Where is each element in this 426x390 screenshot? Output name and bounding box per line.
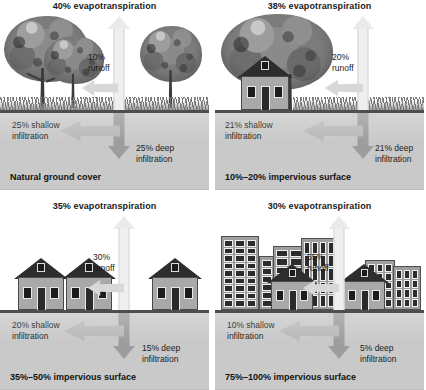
grass [0,97,209,110]
panel-caption: 75%–100% impervious surface [225,372,356,382]
panel-impervious-75-100: 30% evapotranspiration [215,200,424,389]
panel-caption: 35%–50% impervious surface [10,372,136,382]
house-door [37,287,46,310]
evapotranspiration-label: 40% evapotranspiration [0,1,209,11]
house-window [274,86,283,98]
soil-layer: 10% shallow infiltration 5% deep infiltr… [215,313,424,390]
runoff-label: 10% runoff [88,52,110,73]
panel-impervious-35-50: 35% evapotranspiration [0,200,209,389]
runoff-label: 55% runoff [307,252,329,273]
evapotranspiration-label: 35% evapotranspiration [0,201,209,211]
scene-natural: 10% runoff [0,14,209,110]
house-window [157,287,166,299]
house-window [300,290,308,301]
soil-layer: 20% shallow infiltration 15% deep infilt… [0,313,209,390]
soil-layer: 25% shallow infiltration 25% deep infilt… [0,113,209,190]
house-window [247,86,256,98]
house-window [184,287,193,299]
shallow-infiltration-label: 20% shallow infiltration [12,320,60,341]
tree-right [140,26,202,108]
deep-infiltration-label: 25% deep infiltration [136,143,174,164]
deep-infiltration-label: 21% deep infiltration [375,143,413,164]
panel-caption: 10%–20% impervious surface [225,172,351,182]
house-attic-window [289,269,296,277]
house-door [361,290,369,310]
evapotranspiration-label: 38% evapotranspiration [215,1,424,11]
deep-infiltration-label: 15% deep infiltration [142,343,180,364]
runoff-label: 30% runoff [93,252,115,273]
shallow-infiltration-arrow [64,321,124,341]
house [14,258,68,310]
house-door [289,290,297,310]
city-building [393,266,421,310]
scene-three-houses: 30% runoff [0,214,209,310]
shallow-infiltration-label: 10% shallow infiltration [227,320,275,341]
house-window [276,290,284,301]
panel-impervious-10-20: 38% evapotranspiration [215,0,424,189]
house-window [23,287,32,299]
house-window [71,287,80,299]
shallow-infiltration-label: 21% shallow infiltration [225,120,273,141]
shallow-infiltration-arrow [60,121,120,141]
evapotranspiration-label: 30% evapotranspiration [215,201,424,211]
house-body [271,281,313,310]
house-door [261,86,270,110]
shallow-infiltration-arrow [303,121,363,141]
house [148,258,202,310]
house-window [372,290,380,301]
house-window [348,290,356,301]
house-attic-window [261,61,269,70]
house-body [66,277,111,310]
house-attic-window [171,263,179,272]
house [339,264,389,310]
house-attic-window [361,269,368,277]
scene-house-with-tree: 20% runoff [215,14,424,110]
house-window [50,287,59,299]
scene-city: 55% runoff [215,214,424,310]
shallow-infiltration-label: 25% shallow infiltration [12,120,60,141]
shallow-infiltration-arrow [279,321,339,341]
house-door [171,287,180,310]
runoff-label: 20% runoff [332,52,354,73]
house-body [18,277,63,310]
house-body [343,281,385,310]
house-attic-window [37,263,45,272]
panel-caption: Natural ground cover [10,172,101,182]
city-building [221,236,259,310]
panel-natural-ground-cover: 40% evapotranspiration [0,0,209,189]
house-body [241,76,288,110]
soil-layer: 21% shallow infiltration 21% deep infilt… [215,113,424,190]
deep-infiltration-label: 5% deep infiltration [360,343,396,364]
house [237,56,293,110]
house-body [152,277,197,310]
